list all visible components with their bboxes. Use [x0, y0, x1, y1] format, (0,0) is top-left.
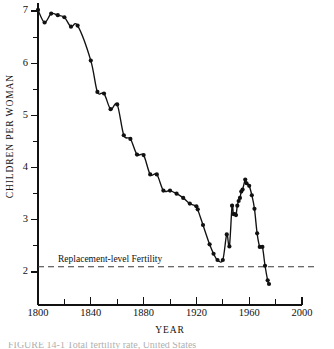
data-point — [168, 188, 172, 192]
data-point — [250, 193, 254, 197]
x-axis-title: YEAR — [155, 325, 184, 335]
figure-caption: FIGURE 14-1 Total fertility rate, United… — [8, 342, 196, 349]
y-tick-label: 6 — [23, 57, 28, 68]
data-point — [142, 153, 146, 157]
x-tick-label: 1920 — [186, 307, 207, 318]
data-point — [225, 232, 229, 236]
axis-titles: YEARCHILDREN PER WOMAN — [5, 74, 185, 335]
x-tick-label: 1800 — [28, 307, 49, 318]
data-point — [201, 223, 205, 227]
data-point — [188, 202, 192, 206]
data-point — [221, 258, 225, 262]
data-point — [235, 204, 239, 208]
x-tick-label: 1880 — [133, 307, 154, 318]
data-point — [234, 213, 238, 217]
data-point — [128, 137, 132, 141]
data-point — [175, 192, 179, 196]
data-point — [263, 264, 267, 268]
data-point — [36, 8, 40, 12]
data-point — [238, 196, 242, 200]
data-point — [215, 258, 219, 262]
data-point — [255, 231, 259, 235]
data-point — [247, 184, 251, 188]
data-point — [208, 242, 212, 246]
x-tick-label: 2000 — [292, 307, 313, 318]
y-axis: 234567 — [23, 3, 38, 305]
data-point — [76, 24, 80, 28]
data-point — [69, 25, 73, 29]
data-point — [89, 58, 93, 62]
data-point — [56, 13, 60, 17]
data-point — [230, 204, 234, 208]
data-point — [49, 12, 53, 16]
data-point — [95, 90, 99, 94]
data-point — [115, 102, 119, 106]
data-point — [155, 172, 159, 176]
data-point — [196, 207, 200, 211]
fertility-trend-line — [38, 10, 269, 284]
data-point — [267, 282, 271, 286]
data-point — [102, 91, 106, 95]
fertility-chart: 234567 180018401880192019602000 Replacem… — [0, 0, 334, 349]
data-point — [227, 244, 231, 248]
x-tick-label: 1960 — [239, 307, 260, 318]
data-point — [260, 245, 264, 249]
data-point — [148, 172, 152, 176]
x-tick-label: 1840 — [80, 307, 101, 318]
data-point — [43, 20, 47, 24]
data-point — [266, 278, 270, 282]
data-point — [161, 188, 165, 192]
y-tick-label: 3 — [23, 213, 28, 224]
data-point — [62, 15, 66, 19]
data-point — [109, 107, 113, 111]
x-axis: 180018401880192019602000 — [28, 297, 313, 318]
data-point — [252, 207, 256, 211]
figure-caption-strip: FIGURE 14-1 Total fertility rate, United… — [0, 342, 334, 349]
y-tick-label: 4 — [23, 161, 29, 172]
data-point — [122, 133, 126, 137]
data-point — [181, 196, 185, 200]
y-tick-label: 2 — [23, 265, 28, 276]
data-point — [135, 152, 139, 156]
y-tick-label: 7 — [23, 4, 28, 15]
data-point — [243, 178, 247, 182]
replacement-level-label: Replacement-level Fertility — [58, 254, 162, 264]
y-axis-title: CHILDREN PER WOMAN — [5, 74, 15, 198]
data-point — [241, 187, 245, 191]
fertility-rate-figure: 234567 180018401880192019602000 Replacem… — [0, 0, 334, 349]
replacement-level-reference: Replacement-level Fertility — [38, 254, 316, 267]
y-tick-label: 5 — [23, 109, 28, 120]
data-point — [211, 252, 215, 256]
fertility-series — [36, 8, 271, 286]
